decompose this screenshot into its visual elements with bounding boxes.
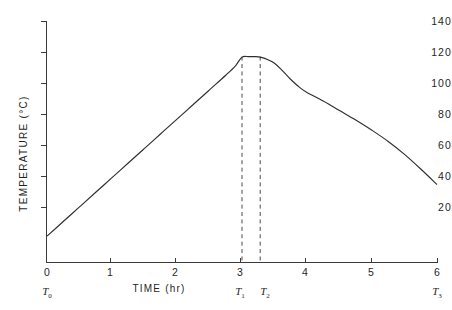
temperature-profile-chart: 140 120 100 80 60 40 20 0 1 2 3 4 5 6 TE… xyxy=(0,0,452,310)
plot-area xyxy=(0,0,452,310)
